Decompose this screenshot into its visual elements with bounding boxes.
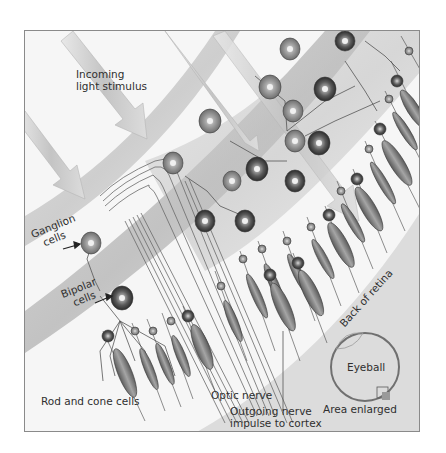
outgoing-line2: impulse to cortex — [230, 417, 322, 429]
incoming-light-line2: light stimulus — [76, 80, 147, 92]
outgoing-line1: Outgoing nerve — [230, 405, 322, 417]
incoming-light-label: Incoming light stimulus — [76, 68, 147, 92]
incoming-light-line1: Incoming — [76, 68, 147, 80]
retina-diagram: Incoming light stimulus Ganglion cells B… — [24, 30, 420, 432]
outgoing-impulse-label: Outgoing nerve impulse to cortex — [230, 405, 322, 429]
eyeball-label: Eyeball — [347, 361, 385, 373]
rod-cone-cells-label: Rod and cone cells — [41, 395, 140, 407]
area-enlarged-label: Area enlarged — [323, 403, 397, 415]
optic-nerve-label: Optic nerve — [211, 389, 272, 401]
